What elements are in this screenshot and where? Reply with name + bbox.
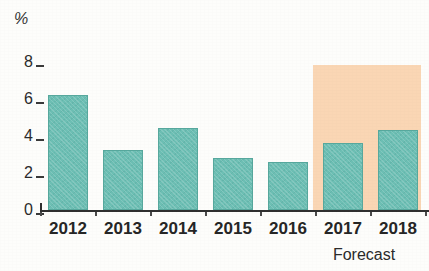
x-tick-mark-2012: [40, 212, 42, 216]
bar-2017: [323, 143, 363, 210]
x-axis-label-2013: 2013: [95, 219, 151, 239]
y-tick-dash-8: [36, 65, 44, 67]
x-axis-label-2017: 2017: [315, 219, 371, 239]
x-tick-mark-2014: [150, 212, 152, 216]
y-tick-dash-4: [36, 139, 44, 141]
bar-2018: [378, 130, 418, 210]
x-axis-label-2015: 2015: [205, 219, 261, 239]
bar-2014: [158, 128, 198, 210]
x-axis-label-2014: 2014: [150, 219, 206, 239]
x-axis-label-2016: 2016: [260, 219, 316, 239]
y-tick-label-0: 0: [24, 201, 33, 219]
x-tick-mark-2016: [260, 212, 262, 216]
y-tick-label-6: 6: [24, 90, 33, 108]
y-tick-4: 4: [8, 127, 44, 145]
x-tick-mark-end: [425, 212, 427, 216]
chart-page: % 8 6 4 2 0 2012201320142015201620172: [0, 0, 429, 271]
y-tick-label-2: 2: [24, 164, 33, 182]
bar-2015: [213, 158, 253, 210]
y-tick-dash-2: [36, 176, 44, 178]
bar-chart: % 8 6 4 2 0 2012201320142015201620172: [0, 0, 429, 271]
y-axis-unit-label: %: [14, 10, 29, 28]
x-axis-label-2018: 2018: [370, 219, 426, 239]
y-tick-6: 6: [8, 90, 44, 108]
bar-2013: [103, 150, 143, 210]
y-tick-0: 0: [8, 201, 44, 219]
x-tick-mark-2015: [205, 212, 207, 216]
x-axis-label-2012: 2012: [40, 219, 96, 239]
x-tick-mark-2013: [95, 212, 97, 216]
bar-2012: [48, 95, 88, 210]
x-tick-mark-2017: [315, 212, 317, 216]
forecast-caption: Forecast: [303, 246, 425, 264]
x-tick-mark-2018: [370, 212, 372, 216]
bar-2016: [268, 162, 308, 210]
y-tick-2: 2: [8, 164, 44, 182]
y-tick-label-8: 8: [24, 53, 33, 71]
y-tick-8: 8: [8, 53, 44, 71]
y-tick-label-4: 4: [24, 127, 33, 145]
y-tick-dash-6: [36, 102, 44, 104]
